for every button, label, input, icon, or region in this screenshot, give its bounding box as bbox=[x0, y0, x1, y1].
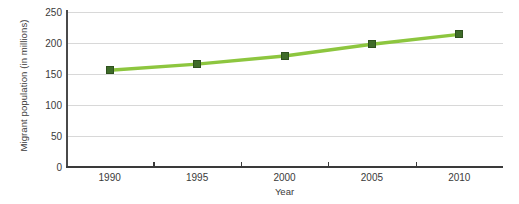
y-axis-tick-label: 0 bbox=[28, 162, 62, 173]
x-axis-tick bbox=[416, 162, 417, 167]
y-axis-tick-label: 100 bbox=[28, 100, 62, 111]
x-axis-title: Year bbox=[66, 186, 503, 197]
y-axis-line bbox=[66, 10, 68, 167]
data-point-marker bbox=[106, 66, 114, 74]
x-axis-tick-label: 1990 bbox=[80, 172, 140, 183]
y-axis-tick-label: 250 bbox=[28, 7, 62, 18]
data-point-marker bbox=[368, 40, 376, 48]
x-axis-line bbox=[66, 166, 503, 168]
grid-line bbox=[66, 105, 503, 106]
x-axis-tick-label: 2010 bbox=[429, 172, 489, 183]
y-axis-tick-labels: 050100150200250 bbox=[24, 0, 62, 204]
plot-area bbox=[66, 12, 503, 167]
grid-line bbox=[66, 136, 503, 137]
x-axis-tick bbox=[153, 162, 154, 167]
x-axis-tick-label: 2005 bbox=[342, 172, 402, 183]
x-axis-tick bbox=[328, 162, 329, 167]
x-axis-tick bbox=[241, 162, 242, 167]
x-axis-tick-label: 2000 bbox=[255, 172, 315, 183]
grid-line bbox=[66, 43, 503, 44]
y-axis-tick-label: 150 bbox=[28, 69, 62, 80]
y-axis-tick-label: 50 bbox=[28, 131, 62, 142]
migrant-population-line-chart: Migrant population (in millions) 0501001… bbox=[0, 0, 519, 204]
data-point-marker bbox=[455, 30, 463, 38]
data-point-marker bbox=[193, 60, 201, 68]
grid-line bbox=[66, 74, 503, 75]
x-axis-tick-label: 1995 bbox=[167, 172, 227, 183]
y-axis-tick-label: 200 bbox=[28, 38, 62, 49]
data-point-marker bbox=[281, 52, 289, 60]
grid-line bbox=[66, 12, 503, 13]
